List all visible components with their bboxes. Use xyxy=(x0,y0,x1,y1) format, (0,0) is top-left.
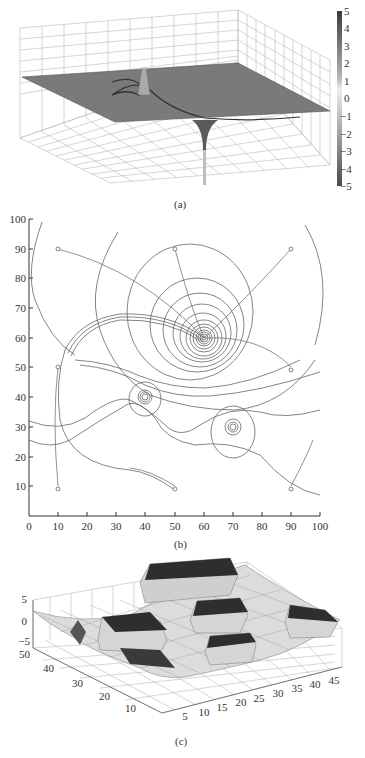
y-tick: 40 xyxy=(15,391,27,403)
y-tick: 90 xyxy=(15,243,27,255)
colorbar-tick: 0 xyxy=(344,92,350,104)
y-tick: 50 xyxy=(15,361,27,373)
y-tick: 70 xyxy=(15,302,27,314)
figure-canvas: 5 4 3 2 1 0 −1 −2 −3 −4 −5 (a) xyxy=(0,0,365,758)
colorbar-tick: −3 xyxy=(340,145,352,157)
panel-c-xticks: 5 10 15 20 25 30 35 40 45 xyxy=(182,674,340,722)
x-tick: 30 xyxy=(273,687,285,699)
x-tick: 40 xyxy=(140,520,152,532)
panel-b-trajectories xyxy=(55,249,313,486)
x-tick: 100 xyxy=(312,520,329,532)
colorbar-tick: 4 xyxy=(344,22,350,34)
x-tick: 10 xyxy=(53,520,65,532)
y-tick: 30 xyxy=(15,421,27,433)
x-tick: 35 xyxy=(292,682,304,694)
caption-a: (a) xyxy=(174,198,187,211)
colorbar-tick: 1 xyxy=(344,75,350,87)
y-tick: 30 xyxy=(72,677,84,689)
colorbar-tick: −1 xyxy=(340,110,352,122)
panel-c-terrain xyxy=(33,558,340,678)
panel-c-surface-plot: 5 0 −5 50 40 30 20 10 5 10 15 20 25 30 3… xyxy=(18,558,342,748)
y-tick: 50 xyxy=(19,648,31,660)
y-tick: 20 xyxy=(99,690,111,702)
x-tick: 90 xyxy=(286,520,298,532)
x-tick: 45 xyxy=(329,674,341,686)
x-tick: 20 xyxy=(82,520,94,532)
panel-b-xticks: 0 10 20 30 40 50 60 70 80 90 100 xyxy=(26,520,329,532)
z-tick: −5 xyxy=(18,635,30,647)
panel-a-colorbar: 5 4 3 2 1 0 −1 −2 −3 −4 −5 xyxy=(337,5,352,192)
colorbar-tick: 2 xyxy=(344,57,350,69)
colorbar-tick: 3 xyxy=(344,40,350,52)
colorbar-tick: −2 xyxy=(340,128,352,140)
x-tick: 10 xyxy=(199,706,211,718)
y-tick: 10 xyxy=(125,702,137,714)
panel-b-contour-plot: 100 90 80 70 60 50 40 30 20 10 0 10 20 3… xyxy=(10,213,329,551)
x-tick: 50 xyxy=(170,520,182,532)
panel-c-zticks: 5 0 −5 xyxy=(18,593,30,647)
y-tick: 60 xyxy=(15,332,27,344)
panel-a-surface-plot: 5 4 3 2 1 0 −1 −2 −3 −4 −5 (a) xyxy=(20,5,352,211)
y-tick: 100 xyxy=(10,213,27,225)
panel-b-yticks: 100 90 80 70 60 50 40 30 20 10 xyxy=(10,213,27,492)
x-tick: 30 xyxy=(111,520,123,532)
z-tick: 5 xyxy=(22,593,28,605)
y-tick: 40 xyxy=(43,662,55,674)
x-tick: 5 xyxy=(182,710,188,722)
caption-b: (b) xyxy=(174,538,187,551)
y-tick: 20 xyxy=(15,451,27,463)
x-tick: 60 xyxy=(199,520,211,532)
x-tick: 20 xyxy=(236,696,248,708)
x-tick: 40 xyxy=(310,678,322,690)
panel-b-contours xyxy=(29,222,323,495)
colorbar-tick: 5 xyxy=(344,5,350,17)
colorbar-tick: −5 xyxy=(340,180,352,192)
caption-c: (c) xyxy=(175,735,188,748)
x-tick: 15 xyxy=(217,701,229,713)
x-tick: 0 xyxy=(26,520,32,532)
y-tick: 80 xyxy=(15,272,27,284)
x-tick: 80 xyxy=(257,520,269,532)
x-tick: 25 xyxy=(254,692,266,704)
x-tick: 70 xyxy=(228,520,240,532)
colorbar-tick: −4 xyxy=(340,163,352,175)
y-tick: 10 xyxy=(15,480,27,492)
z-tick: 0 xyxy=(22,615,28,627)
